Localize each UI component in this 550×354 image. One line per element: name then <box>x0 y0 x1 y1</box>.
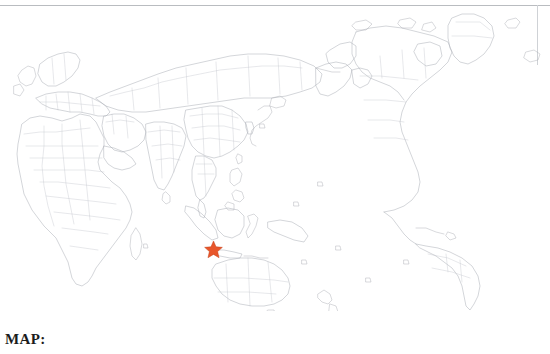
map-figure-page: MAP: <box>0 0 550 354</box>
figure-caption: MAP: <box>5 330 46 348</box>
world-map <box>0 6 550 311</box>
africa-group <box>17 114 142 286</box>
south-america-group <box>416 244 480 310</box>
europe-group <box>14 52 110 116</box>
star-icon <box>204 240 223 259</box>
australia-newzealand-group <box>212 258 338 311</box>
world-map-svg <box>0 6 550 311</box>
middle-east-group <box>102 114 146 152</box>
ocean-islands-group <box>144 124 409 282</box>
east-asia-group <box>184 96 286 164</box>
south-asia-group <box>146 122 186 204</box>
russia-central-asia-group <box>96 54 372 112</box>
location-star-marker[interactable] <box>204 240 223 259</box>
north-america-group <box>316 26 456 244</box>
